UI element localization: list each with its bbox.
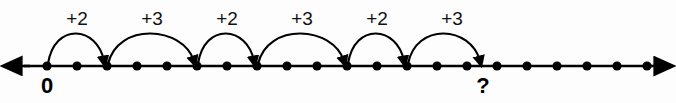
jump-arc-arrow-icon bbox=[258, 34, 344, 64]
tick-dot bbox=[492, 61, 501, 70]
jump-arc-arrow-icon bbox=[348, 34, 404, 64]
tick-dot bbox=[522, 61, 531, 70]
tick-dot bbox=[222, 61, 231, 70]
jump-arc-arrow-icon bbox=[198, 34, 254, 64]
origin-label: 0 bbox=[41, 73, 53, 98]
jump-arc-arrow-icon bbox=[108, 34, 194, 64]
jump-label: +3 bbox=[141, 8, 163, 29]
tick-dot bbox=[42, 61, 51, 70]
jump-arc-arrow-icon bbox=[48, 34, 104, 64]
tick-dot bbox=[102, 61, 111, 70]
tick-dot bbox=[642, 61, 651, 70]
tick-dot bbox=[312, 61, 321, 70]
tick-dot bbox=[552, 61, 561, 70]
tick-dot bbox=[582, 61, 591, 70]
point-labels-group: 0? bbox=[41, 73, 490, 98]
tick-dot bbox=[432, 61, 441, 70]
tick-dot bbox=[402, 61, 411, 70]
jump-arc-arrow-icon bbox=[408, 34, 480, 64]
tick-dot bbox=[192, 61, 201, 70]
tick-dots-group bbox=[42, 61, 651, 70]
tick-dot bbox=[282, 61, 291, 70]
jump-label: +3 bbox=[441, 8, 463, 29]
tick-dot bbox=[132, 61, 141, 70]
tick-dot bbox=[372, 61, 381, 70]
jump-label: +3 bbox=[291, 8, 313, 29]
jump-label: +2 bbox=[366, 8, 388, 29]
jump-label: +2 bbox=[66, 8, 88, 29]
tick-dot bbox=[252, 61, 261, 70]
tick-dot bbox=[162, 61, 171, 70]
tick-dot bbox=[342, 61, 351, 70]
tick-dot bbox=[72, 61, 81, 70]
unknown-value-label: ? bbox=[476, 73, 489, 98]
tick-dot bbox=[612, 61, 621, 70]
tick-dot bbox=[462, 61, 471, 70]
jump-labels-group: +2+3+2+3+2+3 bbox=[66, 8, 463, 29]
jump-arcs-group bbox=[48, 34, 480, 64]
number-line-figure: +2+3+2+3+2+3 0? bbox=[0, 0, 676, 103]
jump-label: +2 bbox=[216, 8, 238, 29]
number-line-diagram: +2+3+2+3+2+3 0? bbox=[0, 0, 676, 103]
